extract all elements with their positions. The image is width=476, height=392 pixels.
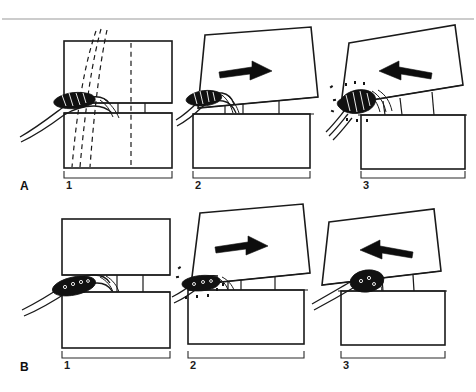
- b2-pain-mark-4: [196, 295, 198, 298]
- a3-pain-mark-8: [356, 119, 358, 122]
- b2-lower-vertebra: [188, 290, 304, 344]
- figure-container: 1: [0, 0, 476, 392]
- a3-pain-mark-9: [366, 119, 368, 122]
- a3-lower-vertebra: [361, 115, 465, 169]
- a1-number: 1: [66, 179, 72, 191]
- b2-pain-mark-3: [185, 296, 187, 299]
- b2-pain-mark-5: [207, 294, 209, 297]
- a2-number: 2: [195, 179, 201, 191]
- row-b-label: B: [20, 360, 29, 374]
- b1-lower-vertebra: [62, 292, 170, 348]
- figure-canvas: 1: [0, 0, 476, 392]
- a3-pain-mark-5: [354, 81, 356, 84]
- b3-lower-vertebra: [341, 291, 445, 345]
- b2-number: 2: [190, 359, 196, 371]
- a3-number: 3: [363, 179, 369, 191]
- b1-number: 1: [64, 359, 70, 371]
- a1-lower-vertebra: [64, 113, 172, 168]
- row-a-label: A: [20, 179, 29, 193]
- b2-pain-mark-7: [222, 283, 224, 286]
- b3-number: 3: [343, 359, 349, 371]
- a3-pain-mark-4: [345, 83, 347, 86]
- a3-pain-mark-6: [363, 82, 365, 85]
- a3-pain-mark-7: [346, 118, 348, 121]
- a2-lower-vertebra: [193, 114, 310, 168]
- b1-upper-vertebra: [62, 219, 170, 275]
- b2-pain-mark-6: [216, 288, 218, 291]
